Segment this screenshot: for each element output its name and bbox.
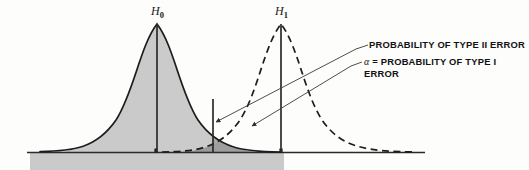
distribution-plot (0, 0, 529, 170)
type-two-error-callout: PROBABILITY OF TYPE II ERROR (369, 39, 525, 51)
type-two-error-region (0, 0, 529, 170)
type-one-error-callout: α = PROBABILITY OF TYPE IERROR (364, 56, 496, 79)
null-hypothesis-letter: H (151, 4, 160, 18)
null-hypothesis-label: H0 (151, 5, 164, 20)
alternative-hypothesis-letter: H (275, 4, 284, 18)
type-i-type-ii-error-diagram: H0 H1 PROBABILITY OF TYPE II ERROR α = P… (0, 0, 529, 170)
alternative-hypothesis-label: H1 (275, 5, 288, 20)
alternative-hypothesis-subscript: 1 (284, 10, 288, 20)
null-hypothesis-subscript: 0 (160, 10, 164, 20)
type-one-error-callout-line2: ERROR (364, 68, 399, 79)
type-one-error-callout-line1: = PROBABILITY OF TYPE I (369, 56, 496, 67)
